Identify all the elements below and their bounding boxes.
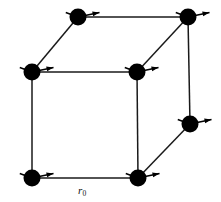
- cube-edge-back-right-vertical: [188, 17, 190, 124]
- spin-vectors-group: [20, 11, 212, 178]
- lattice-constant-subscript: 0: [83, 189, 87, 198]
- lattice-constant-label: r0: [78, 185, 86, 196]
- atom-front-top-left: [24, 64, 41, 81]
- cube-edge-diag-bottom-right: [138, 124, 190, 178]
- cube-edge-front-right: [137, 72, 138, 178]
- lattice-diagram-svg: [0, 0, 221, 202]
- atom-front-top-right: [129, 64, 146, 81]
- lattice-figure: r0: [0, 0, 221, 202]
- atoms-group: [24, 9, 199, 187]
- atom-back-top-right: [180, 9, 197, 26]
- cube-edge-diag-top-right: [137, 17, 188, 72]
- atom-front-bottom-left: [24, 170, 41, 187]
- atom-back-bottom-right: [182, 116, 199, 133]
- cube-edge-diag-top-left: [32, 17, 78, 72]
- atom-front-bottom-right: [130, 170, 147, 187]
- cube-edges-group: [32, 17, 190, 178]
- atom-back-top-left: [70, 9, 87, 26]
- lattice-constant-symbol: r: [78, 184, 82, 196]
